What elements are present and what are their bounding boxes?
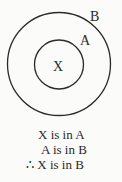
set-label-b: B — [90, 10, 99, 24]
conclusion: ∴ X is in B — [26, 157, 84, 173]
premise-2: A is in B — [41, 142, 87, 158]
element-label-x: X — [53, 60, 63, 74]
set-label-a: A — [80, 34, 90, 48]
premise-1: X is in A — [38, 127, 85, 143]
